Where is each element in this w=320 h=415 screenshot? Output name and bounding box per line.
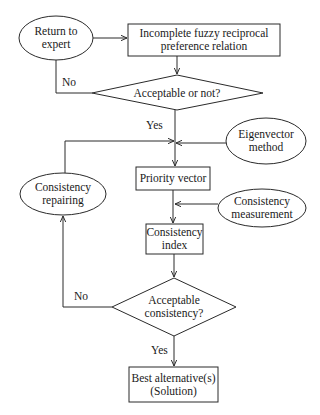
edge-label-yes-top: Yes bbox=[146, 119, 163, 132]
edge-label-no-bottom: No bbox=[74, 290, 88, 303]
flowchart-diagram: Return to expert Incomplete fuzzy recipr… bbox=[0, 0, 320, 415]
consistency-index-shape bbox=[146, 224, 203, 254]
acceptable-consistency-shape bbox=[112, 278, 236, 336]
consistency-measurement-shape bbox=[218, 189, 306, 227]
priority-vector-shape bbox=[136, 167, 210, 190]
edge-label-yes-bottom: Yes bbox=[151, 344, 168, 357]
eigenvector-method-shape bbox=[226, 118, 306, 164]
return-to-expert-shape bbox=[19, 16, 93, 60]
edge-label-no-top: No bbox=[62, 76, 76, 89]
acceptable-or-not-shape bbox=[92, 75, 263, 110]
incomplete-relation-shape bbox=[128, 24, 280, 56]
edge-repairing-to-merge bbox=[65, 141, 174, 173]
consistency-repairing-shape bbox=[20, 173, 106, 215]
best-alternative-shape bbox=[129, 367, 218, 402]
